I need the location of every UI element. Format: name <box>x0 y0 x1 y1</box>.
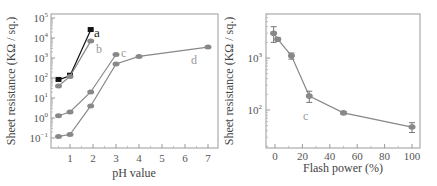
series-c-marker <box>288 53 295 59</box>
right-chart: 102103 020406080100 Flash power (%) Shee… <box>222 14 421 175</box>
series-c-marker <box>270 30 277 36</box>
series-d-marker <box>136 54 143 59</box>
y-tick-label: 103 <box>34 51 49 64</box>
x-tick-label: 0 <box>272 150 278 162</box>
right-x-axis-label: Flash power (%) <box>303 161 383 175</box>
left-x-axis-label: pH value <box>112 166 156 180</box>
right-y-axis: 102103 <box>248 14 271 146</box>
series-d-line <box>59 47 209 136</box>
series-c-marker <box>409 124 416 130</box>
series-d-marker <box>205 45 212 50</box>
series-c-marker <box>87 89 94 94</box>
x-tick-label: 5 <box>159 152 165 164</box>
series-c-marker <box>55 113 62 118</box>
y-tick-label: 101 <box>34 91 49 104</box>
right-plot-frame <box>266 14 420 148</box>
right-y-axis-label: Sheet resistance (KΩ / sq.) <box>222 17 236 146</box>
left-x-axis: 1234567 <box>59 144 212 164</box>
x-tick-label: 7 <box>205 152 211 164</box>
series-c-marker <box>306 93 313 99</box>
left-plot-frame <box>51 14 218 148</box>
y-tick-label: 105 <box>34 11 49 24</box>
y-tick-label: 104 <box>34 31 49 44</box>
series-c-marker <box>113 52 120 57</box>
x-tick-label: 2 <box>90 152 96 164</box>
series-a-marker <box>88 27 94 32</box>
y-tick-label: 102 <box>248 103 263 116</box>
series-d-marker <box>67 132 74 137</box>
series-b-line <box>59 41 91 86</box>
y-tick-label: 102 <box>34 71 49 84</box>
y-tick-label: 100 <box>34 111 49 124</box>
y-tick-label: 10−1 <box>30 131 49 144</box>
right-x-axis: 020406080100 <box>272 144 421 162</box>
series-c-marker <box>340 110 347 116</box>
series-c-marker <box>274 36 281 42</box>
series-b-marker <box>55 83 62 88</box>
left-chart: 10−1100101102103104105 1234567 pH value … <box>4 11 218 180</box>
x-tick-label: 6 <box>182 152 188 164</box>
series-d-marker <box>55 134 62 139</box>
series-c-label: c <box>121 46 126 60</box>
x-tick-label: 4 <box>136 152 142 164</box>
right-series <box>270 27 415 133</box>
x-tick-label: 1 <box>67 152 73 164</box>
series-d-label: d <box>191 53 197 67</box>
x-tick-label: 3 <box>113 152 119 164</box>
figure: 10−1100101102103104105 1234567 pH value … <box>0 0 437 186</box>
left-y-axis-label: Sheet resistance (KΩ / sq.) <box>4 17 18 146</box>
y-tick-label: 103 <box>248 51 263 64</box>
series-b-label: b <box>96 42 102 56</box>
right-series-c-label: c <box>303 109 308 123</box>
series-a-label: a <box>94 25 100 40</box>
series-c-marker <box>67 109 74 114</box>
series-a-line <box>59 30 91 80</box>
x-tick-label: 100 <box>404 150 421 162</box>
series-b-marker <box>67 74 74 79</box>
left-series <box>55 27 212 139</box>
series-d-marker <box>87 103 94 108</box>
series-c-line <box>59 54 117 115</box>
series-d-marker <box>113 62 120 67</box>
series-a-marker <box>56 77 62 82</box>
